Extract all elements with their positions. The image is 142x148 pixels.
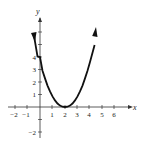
svg-text:−1: −1 [22,111,30,119]
svg-text:1: 1 [33,91,37,99]
parabola-curve [34,35,95,107]
svg-text:−2: −2 [10,111,18,119]
parabola-chart: x y −2 −1 1 2 3 4 5 6 4 3 2 1 −2 [0,0,142,148]
y-axis-arrow-icon [38,17,42,22]
svg-text:5: 5 [100,111,104,119]
svg-text:1: 1 [50,111,54,119]
right-arrow-icon [92,27,97,37]
y-tick-labels: 4 3 2 1 −2 [29,54,37,137]
svg-text:2: 2 [63,111,67,119]
x-tick-labels: −2 −1 1 2 3 4 5 6 [10,111,116,119]
svg-text:−2: −2 [29,129,37,137]
svg-text:4: 4 [33,54,37,62]
svg-text:6: 6 [112,111,116,119]
svg-text:4: 4 [87,111,91,119]
svg-text:2: 2 [33,79,37,87]
x-axis-label: x [132,103,137,112]
svg-text:3: 3 [33,66,37,74]
y-axis-label: y [35,7,40,16]
svg-text:3: 3 [75,111,79,119]
